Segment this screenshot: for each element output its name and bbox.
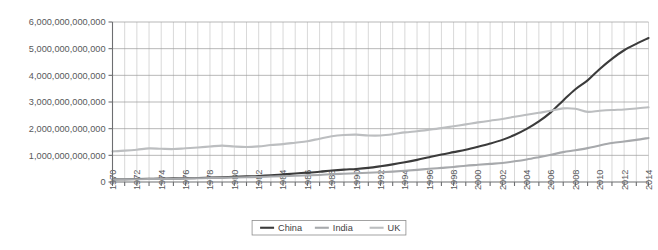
ytick-label: 5,000,000,000,000 (29, 44, 106, 54)
y-axis-tick-labels: 01,000,000,000,0002,000,000,000,0003,000… (29, 17, 106, 187)
xtick-label: 2012 (620, 170, 630, 190)
ytick-label: 0 (100, 177, 105, 187)
xtick-label: 1984 (278, 170, 288, 190)
ytick-label: 4,000,000,000,000 (29, 71, 106, 81)
chart-legend: ChinaIndiaUK (252, 221, 406, 236)
ytick-label: 6,000,000,000,000 (29, 17, 106, 27)
ytick-label: 2,000,000,000,000 (29, 124, 106, 134)
xtick-label: 2010 (595, 170, 605, 190)
xtick-label: 2004 (522, 170, 532, 190)
xtick-label: 1982 (254, 170, 264, 190)
xtick-label: 2006 (546, 170, 556, 190)
xtick-label: 1978 (205, 170, 215, 190)
xtick-label: 2014 (644, 170, 654, 190)
xtick-label: 1980 (230, 170, 240, 190)
xtick-label: 1994 (400, 170, 410, 190)
xtick-label: 1988 (327, 170, 337, 190)
xtick-label: 2008 (571, 170, 581, 190)
legend-label-uk: UK (388, 223, 402, 233)
ytick-label: 3,000,000,000,000 (29, 97, 106, 107)
legend-label-china: China (278, 223, 303, 233)
xtick-label: 2002 (498, 170, 508, 190)
xtick-label: 1976 (181, 170, 191, 190)
legend-label-india: India (333, 223, 354, 233)
gdp-line-chart: 01,000,000,000,0002,000,000,000,0003,000… (0, 0, 658, 250)
xtick-label: 1998 (449, 170, 459, 190)
xtick-label: 1996 (425, 170, 435, 190)
xtick-label: 2000 (473, 170, 483, 190)
y-axis-ticks (109, 22, 113, 182)
ytick-label: 1,000,000,000,000 (29, 151, 106, 161)
chart-figure: 01,000,000,000,0002,000,000,000,0003,000… (0, 0, 658, 250)
